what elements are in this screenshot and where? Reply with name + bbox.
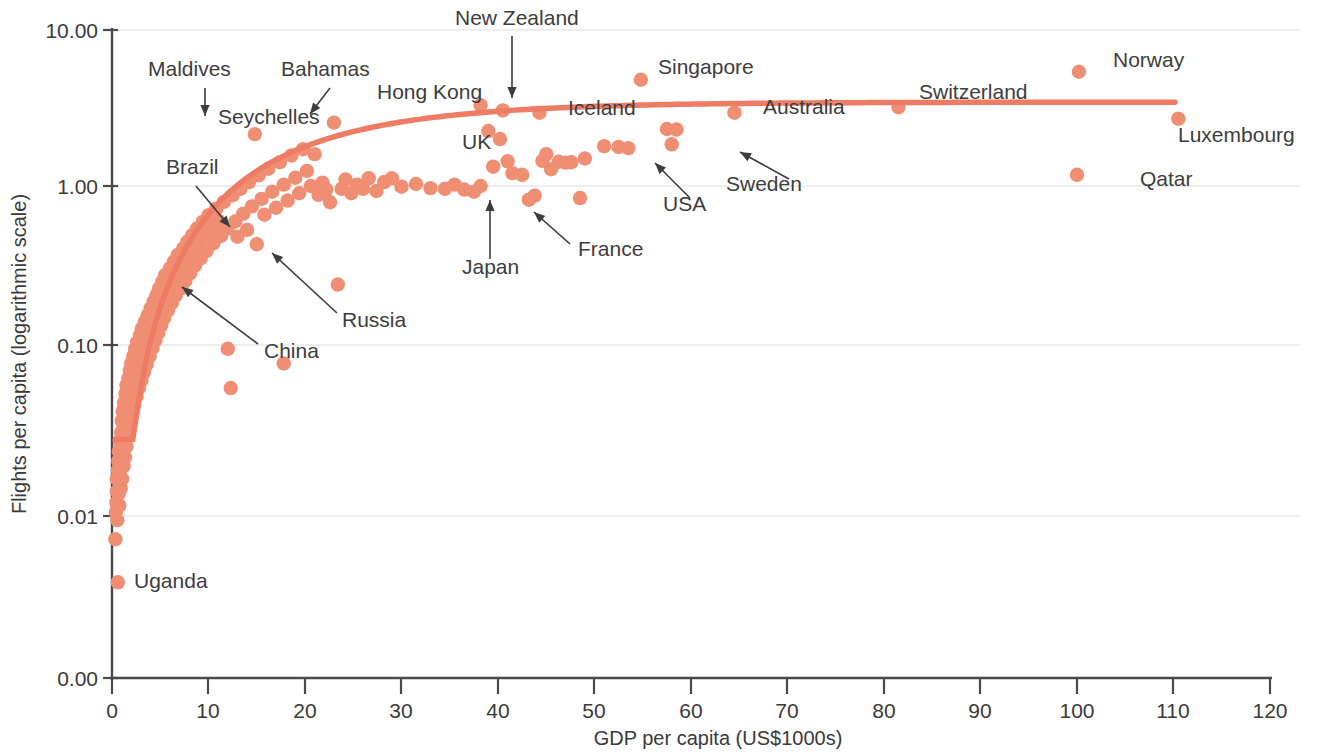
- x-tick-marks: [112, 678, 1270, 694]
- scatter-point: [515, 168, 529, 182]
- scatter-point: [111, 575, 125, 589]
- annotation-arrowhead: [740, 152, 752, 161]
- x-tick-label-20: 20: [293, 699, 316, 722]
- annotation-label-qatar: Qatar: [1140, 167, 1193, 190]
- y-tick-labels: 10.00 1.00 0.10 0.01 0.00: [45, 19, 98, 690]
- annotation-label-sweden: Sweden: [726, 172, 802, 195]
- x-tick-label-60: 60: [679, 699, 702, 722]
- annotation-label-china: China: [264, 339, 319, 362]
- x-tick-label-110: 110: [1156, 699, 1189, 722]
- annotation-label-usa: USA: [663, 192, 706, 215]
- x-axis-title: GDP per capita (US$1000s): [594, 727, 843, 749]
- scatter-point: [539, 147, 553, 161]
- scatter-point: [331, 277, 345, 291]
- annotation-label-norway: Norway: [1113, 48, 1185, 71]
- scatter-point: [727, 106, 741, 120]
- annotation-arrowhead: [485, 200, 494, 211]
- annotation-label-singapore: Singapore: [658, 55, 754, 78]
- annotation-labels-layer: MaldivesBahamasSeychellesHong KongNew Ze…: [134, 6, 1295, 592]
- scatter-point: [669, 122, 683, 136]
- scatter-point: [112, 498, 126, 512]
- scatter-points-layer: [108, 65, 1185, 590]
- scatter-point: [394, 179, 408, 193]
- x-tick-label-90: 90: [968, 699, 991, 722]
- scatter-point: [250, 237, 264, 251]
- scatter-point: [621, 141, 635, 155]
- x-tick-label-40: 40: [486, 699, 509, 722]
- x-tick-label-0: 0: [106, 699, 118, 722]
- trend-line: [115, 102, 1175, 439]
- scatter-point: [578, 151, 592, 165]
- annotation-leader-line: [272, 253, 337, 313]
- scatter-plot-svg: 10.00 1.00 0.10 0.01 0.00 0 10 20 30 40 …: [0, 0, 1321, 752]
- chart-container: 10.00 1.00 0.10 0.01 0.00 0 10 20 30 40 …: [0, 0, 1321, 752]
- y-tick-label-0.10: 0.10: [57, 334, 98, 357]
- annotation-label-switzerland: Switzerland: [919, 80, 1028, 103]
- scatter-point: [327, 115, 341, 129]
- y-tick-label-1: 1.00: [57, 175, 98, 198]
- annotation-arrowhead: [200, 105, 209, 116]
- annotation-label-maldives: Maldives: [148, 57, 231, 80]
- scatter-point: [597, 139, 611, 153]
- y-tick-label-10: 10.00: [45, 19, 98, 42]
- x-tick-label-10: 10: [196, 699, 219, 722]
- annotation-label-brazil: Brazil: [166, 155, 219, 178]
- scatter-point: [665, 137, 679, 151]
- scatter-point: [248, 127, 262, 141]
- annotation-label-iceland: Iceland: [568, 96, 636, 119]
- scatter-point: [1070, 168, 1084, 182]
- annotation-label-france: France: [578, 237, 643, 260]
- scatter-point: [527, 188, 541, 202]
- scatter-point: [573, 191, 587, 205]
- x-tick-labels: 0 10 20 30 40 50 60 70 80 90 100 110 120: [106, 699, 1287, 722]
- annotation-label-new-zealand: New Zealand: [455, 6, 579, 29]
- annotation-label-uk: UK: [462, 130, 491, 153]
- annotation-label-seychelles: Seychelles: [218, 105, 320, 128]
- annotation-label-bahamas: Bahamas: [281, 57, 370, 80]
- x-tick-label-70: 70: [775, 699, 798, 722]
- scatter-point: [115, 472, 129, 486]
- scatter-point: [409, 177, 423, 191]
- scatter-point: [323, 195, 337, 209]
- scatter-point: [493, 132, 507, 146]
- scatter-point: [423, 181, 437, 195]
- annotation-label-uganda: Uganda: [134, 569, 208, 592]
- x-tick-label-100: 100: [1059, 699, 1094, 722]
- x-tick-label-30: 30: [389, 699, 412, 722]
- annotation-arrowhead: [507, 87, 516, 98]
- scatter-point: [361, 171, 375, 185]
- annotation-label-japan: Japan: [462, 255, 519, 278]
- x-tick-label-80: 80: [872, 699, 895, 722]
- y-tick-label-0.00: 0.00: [57, 667, 98, 690]
- annotation-label-hong-kong: Hong Kong: [377, 80, 482, 103]
- scatter-point: [223, 381, 237, 395]
- scatter-point: [108, 532, 122, 546]
- scatter-point: [634, 73, 648, 87]
- scatter-point: [473, 179, 487, 193]
- scatter-point: [221, 342, 235, 356]
- y-axis-title: Flights per capita (logarithmic scale): [8, 194, 30, 514]
- scatter-point: [240, 223, 254, 237]
- scatter-point: [564, 155, 578, 169]
- annotation-label-australia: Australia: [763, 95, 845, 118]
- x-tick-label-50: 50: [582, 699, 605, 722]
- scatter-point: [300, 164, 314, 178]
- scatter-point: [319, 182, 333, 196]
- annotation-label-luxembourg: Luxembourg: [1178, 123, 1295, 146]
- x-tick-label-120: 120: [1252, 699, 1287, 722]
- y-tick-label-0.01: 0.01: [57, 505, 98, 528]
- scatter-point: [1072, 65, 1086, 79]
- scatter-point: [307, 147, 321, 161]
- annotation-leader-line: [182, 287, 258, 344]
- annotation-label-russia: Russia: [342, 308, 407, 331]
- scatter-point: [486, 159, 500, 173]
- scatter-point: [110, 513, 124, 527]
